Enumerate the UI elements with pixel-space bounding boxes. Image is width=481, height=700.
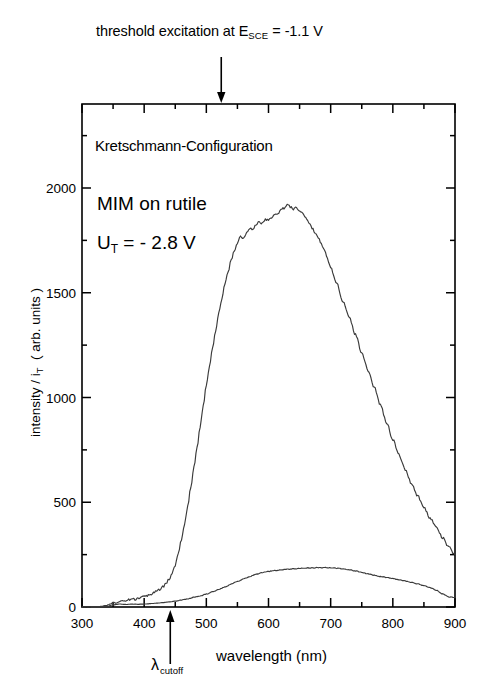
x-tick-label: 900 bbox=[430, 616, 480, 631]
plot-frame bbox=[82, 104, 455, 607]
y-axis-label-subscript: T bbox=[34, 367, 45, 373]
cutoff-subscript: cutoff bbox=[160, 665, 183, 676]
caption-suffix: = -1.1 V bbox=[272, 23, 322, 39]
voltage-value: = - 2.8 V bbox=[123, 232, 195, 253]
figure-container: threshold excitation at ESCE = -1.1 V Kr… bbox=[0, 0, 481, 700]
annotation-configuration: Kretschmann-Configuration bbox=[95, 138, 273, 153]
data-curves bbox=[82, 204, 455, 607]
x-axis-ticks bbox=[82, 104, 455, 607]
cutoff-wavelength-label: λcutoff bbox=[151, 657, 182, 673]
chart-canvas bbox=[0, 0, 481, 700]
figure-caption-top: threshold excitation at ESCE = -1.1 V bbox=[96, 24, 323, 39]
y-tick-label: 1500 bbox=[24, 286, 76, 301]
x-tick-label: 400 bbox=[119, 616, 169, 631]
y-tick-label: 500 bbox=[24, 495, 76, 510]
caption-subscript: SCE bbox=[248, 30, 268, 41]
annotation-voltage: UT = - 2.8 V bbox=[97, 233, 196, 252]
x-tick-label: 300 bbox=[57, 616, 107, 631]
y-tick-label: 0 bbox=[24, 600, 76, 615]
caption-prefix: threshold excitation at E bbox=[96, 23, 248, 39]
voltage-subscript: T bbox=[111, 242, 118, 256]
x-tick-label: 800 bbox=[368, 616, 418, 631]
x-tick-label: 600 bbox=[244, 616, 294, 631]
x-tick-label: 700 bbox=[306, 616, 356, 631]
y-axis-label: intensity / iT ( arb. units ) bbox=[28, 243, 43, 483]
voltage-symbol: U bbox=[97, 232, 111, 253]
y-tick-label: 1000 bbox=[24, 391, 76, 406]
x-axis-label: wavelength (nm) bbox=[216, 648, 327, 663]
lambda-symbol: λ bbox=[151, 656, 159, 673]
x-tick-label: 500 bbox=[181, 616, 231, 631]
annotation-sample: MIM on rutile bbox=[97, 194, 207, 213]
y-tick-label: 2000 bbox=[24, 181, 76, 196]
